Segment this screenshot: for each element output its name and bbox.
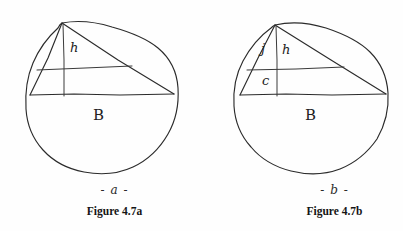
triangle-right-side-a xyxy=(62,23,174,94)
triangle-left-side-b xyxy=(240,25,275,95)
label-j-b: j xyxy=(258,41,265,56)
label-h-b: h xyxy=(282,42,290,57)
label-h-a: h xyxy=(70,40,78,55)
label-b-b: B xyxy=(305,106,316,124)
triangle-right-side-b xyxy=(275,25,386,94)
circle-outline-a xyxy=(26,22,178,174)
upper-chord-b xyxy=(247,67,344,70)
height-line-a xyxy=(63,24,64,96)
label-b-a: B xyxy=(93,106,104,124)
caption-a: Figure 4.7a xyxy=(0,205,215,217)
circle-outline-b xyxy=(234,23,388,174)
base-chord-a xyxy=(30,94,174,95)
base-chord-b xyxy=(240,94,386,95)
figure-a-drawing: h B xyxy=(0,0,201,185)
upper-chord-a xyxy=(37,66,132,70)
sub-label-a: - a - xyxy=(0,183,215,197)
figure-page: h B - a - Figure 4.7a j h xyxy=(0,0,403,231)
figure-b-drawing: j h c B xyxy=(202,0,403,185)
caption-b: Figure 4.7b xyxy=(202,205,403,217)
figure-panel-a: h B - a - Figure 4.7a xyxy=(0,0,201,231)
height-line-b xyxy=(276,26,277,96)
sub-label-b: - b - xyxy=(202,183,403,197)
label-c-b: c xyxy=(262,73,270,88)
figure-panel-b: j h c B - b - Figure 4.7b xyxy=(202,0,403,231)
